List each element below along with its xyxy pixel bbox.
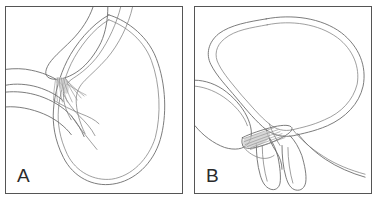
panel-b: B: [194, 6, 372, 194]
bladder-right-descent-inner: [293, 130, 365, 175]
bladder-inner-wall: [216, 23, 358, 131]
panel-a: A: [5, 6, 183, 194]
left-organ-mass: [195, 80, 251, 149]
panel-b-label: B: [206, 166, 219, 185]
bladder-outline: [208, 17, 364, 137]
descending-tube-right: [282, 136, 306, 191]
descending-tube-right-inner: [288, 147, 293, 183]
organ-inner-contour: [63, 7, 120, 120]
figure-container: A: [0, 0, 382, 201]
bladder-inner-wall: [58, 20, 159, 180]
left-organ-inner-contour: [195, 86, 247, 126]
panel-a-illustration: [6, 7, 182, 193]
bladder-right-descent: [298, 134, 365, 178]
panel-a-label: A: [17, 166, 30, 185]
panel-b-illustration: [195, 7, 371, 193]
upper-tube: [6, 69, 64, 92]
lower-tube-lower-edge: [6, 107, 71, 135]
descending-tube-left: [256, 138, 280, 190]
descending-tube-left-inner: [262, 146, 267, 182]
upper-organ-mass: [46, 7, 108, 79]
